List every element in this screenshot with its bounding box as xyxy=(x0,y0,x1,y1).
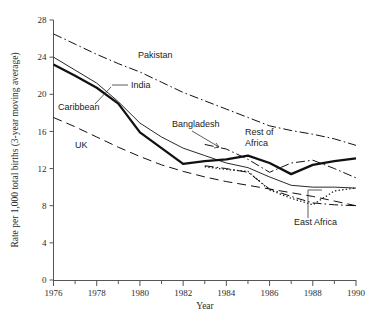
y-tick-label: 28 xyxy=(38,15,48,25)
y-tick-label: 4 xyxy=(42,238,47,248)
y-tick-label: 12 xyxy=(38,164,47,174)
series-label-bangladesh: Bangladesh xyxy=(172,119,220,129)
y-tick-label: 20 xyxy=(38,89,48,99)
y-tick-label: 8 xyxy=(42,201,47,211)
chart-svg: 0481216202428 19761978198019821984198619… xyxy=(0,0,379,321)
x-tick-label: 1990 xyxy=(347,288,366,298)
y-tick-label: 0 xyxy=(42,275,47,285)
x-tick-label: 1976 xyxy=(45,288,64,298)
x-tick-label: 1984 xyxy=(217,288,236,298)
series-label-rest-of-africa-line2: Africa xyxy=(245,138,268,148)
series-label-india: India xyxy=(131,80,151,90)
series-label-caribbean: Caribbean xyxy=(58,102,100,112)
y-tick-label: 16 xyxy=(38,127,48,137)
x-axis-title: Year xyxy=(196,301,214,311)
x-tick-label: 1986 xyxy=(261,288,280,298)
series-label-rest-of-africa: Rest of xyxy=(245,127,274,137)
x-tick-label: 1988 xyxy=(304,288,323,298)
y-axis-title: Rate per 1,000 total births (3-year movi… xyxy=(10,52,21,247)
chart-background xyxy=(0,0,379,321)
series-label-uk: UK xyxy=(75,140,88,150)
series-label-east-africa: East Africa xyxy=(294,217,337,227)
x-tick-label: 1982 xyxy=(174,288,192,298)
x-tick-label: 1978 xyxy=(88,288,107,298)
y-tick-label: 24 xyxy=(38,52,48,62)
line-chart: 0481216202428 19761978198019821984198619… xyxy=(0,0,379,321)
series-label-pakistan: Pakistan xyxy=(138,50,173,60)
x-tick-label: 1980 xyxy=(131,288,150,298)
